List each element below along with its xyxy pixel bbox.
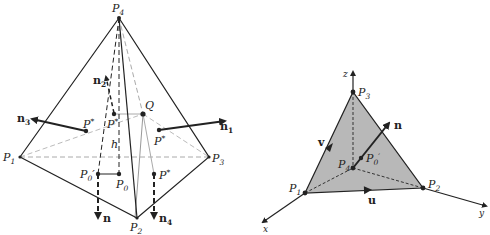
label-n: n [394,119,402,132]
line-q-p2 [135,114,143,218]
line-q-p3 [143,114,209,157]
label-p4star: P* [158,168,170,182]
label-p0: P0 [115,178,128,193]
label-p2star: P* [106,117,118,131]
point-p2star [112,112,116,116]
normal-n1-arrow [159,121,225,130]
line-q-p4star [143,114,154,174]
label-p3star: P* [82,117,94,131]
label-p2: P2 [129,221,142,235]
label-p1: P1 [288,182,301,197]
label-p2: P2 [427,178,440,193]
point-p2 [421,186,426,191]
label-n4: n4 [159,212,172,227]
label-p0prime: P0′ [79,168,95,183]
x-axis [263,193,305,222]
point-p4 [351,166,356,171]
label-u: u [368,194,376,207]
point-p1 [303,191,308,196]
left-figure-tetrahedron: P4 P1 P3 P2 Q P* P* P* P0′ P0 P* h n3 n1… [2,2,233,235]
label-h: h [111,138,118,151]
label-x: x [263,224,268,234]
point-p4star [152,172,156,176]
point-p3 [207,155,210,158]
point-q [140,111,145,116]
label-p0prime: P0′ [365,152,380,167]
point-p3 [351,90,356,95]
label-p3: P3 [357,86,370,101]
label-n3: n3 [17,112,30,127]
label-n2: n2 [93,74,106,89]
point-p2 [135,216,138,219]
label-n1: n1 [220,120,233,135]
point-p0prime [96,172,100,176]
diagram-canvas: P4 P1 P3 P2 Q P* P* P* P0′ P0 P* h n3 n1… [0,0,490,235]
label-p1: P1 [2,151,15,166]
point-p0prime [359,156,363,160]
label-y: y [478,208,485,218]
point-p1 [18,155,21,158]
label-p4: P4 [111,2,124,17]
label-z: z [342,69,348,79]
point-p0 [117,172,121,176]
label-q: Q [145,99,154,112]
label-p1star: P* [153,134,165,148]
line-p4-q [119,18,143,114]
label-n: n [103,212,111,225]
point-p1star [157,128,161,132]
right-figure-triangle-face: z x y P3 P4 P1 P2 P0′ n u v [263,69,486,234]
label-p3: P3 [211,152,224,167]
label-v: v [317,136,325,149]
